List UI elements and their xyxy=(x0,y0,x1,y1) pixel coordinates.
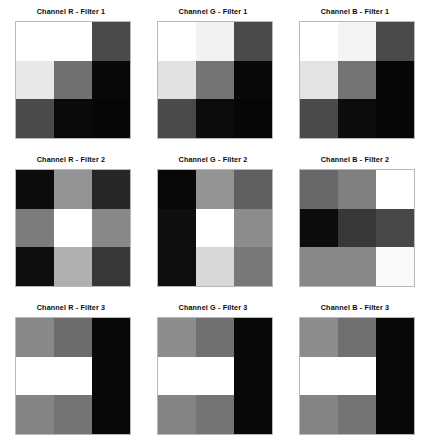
heatmap-cell xyxy=(196,99,234,138)
heatmap-cell xyxy=(234,247,272,286)
heatmap-cell xyxy=(16,357,54,396)
heatmap-cell xyxy=(54,170,92,209)
heatmap-cell xyxy=(376,357,414,396)
heatmap-cell xyxy=(196,318,234,357)
subplot-panel-7: Channel R - Filter 3 xyxy=(0,296,142,444)
heatmap-cell xyxy=(234,22,272,61)
heatmap-cell xyxy=(338,247,376,286)
heatmap-cell xyxy=(376,395,414,434)
heatmap-cell xyxy=(338,357,376,396)
heatmap-cell xyxy=(92,395,130,434)
heatmap-grid xyxy=(15,317,131,435)
heatmap-grid xyxy=(299,317,415,435)
heatmap-cell xyxy=(54,22,92,61)
heatmap-cell xyxy=(92,61,130,100)
heatmap-cell xyxy=(158,209,196,248)
heatmap-cell xyxy=(300,209,338,248)
heatmap-cell xyxy=(338,99,376,138)
heatmap-grid xyxy=(15,169,131,287)
subplot-panel-3: Channel B - Filter 1 xyxy=(284,0,426,148)
heatmap-grid xyxy=(299,21,415,139)
heatmap-cell xyxy=(376,318,414,357)
figure-canvas: Channel R - Filter 1Channel G - Filter 1… xyxy=(0,0,427,444)
heatmap-cell xyxy=(196,170,234,209)
heatmap-cell xyxy=(338,170,376,209)
heatmap-grid xyxy=(157,21,273,139)
heatmap-cell xyxy=(376,170,414,209)
heatmap-cell xyxy=(16,318,54,357)
heatmap-cell xyxy=(300,247,338,286)
subplot-title: Channel R - Filter 1 xyxy=(0,7,142,16)
heatmap-cell xyxy=(92,318,130,357)
heatmap-cell xyxy=(196,209,234,248)
heatmap-cell xyxy=(54,247,92,286)
heatmap-cell xyxy=(234,61,272,100)
heatmap-cell xyxy=(196,357,234,396)
heatmap-cell xyxy=(158,22,196,61)
heatmap-cell xyxy=(54,209,92,248)
heatmap-cell xyxy=(196,395,234,434)
heatmap-cell xyxy=(338,209,376,248)
heatmap-cell xyxy=(300,318,338,357)
subplot-title: Channel B - Filter 2 xyxy=(284,155,426,164)
subplot-title: Channel G - Filter 1 xyxy=(142,7,284,16)
heatmap-cell xyxy=(92,247,130,286)
subplot-title: Channel G - Filter 3 xyxy=(142,303,284,312)
heatmap-cell xyxy=(16,61,54,100)
heatmap-grid xyxy=(157,169,273,287)
heatmap-cell xyxy=(376,22,414,61)
subplot-panel-8: Channel G - Filter 3 xyxy=(142,296,284,444)
heatmap-cell xyxy=(234,357,272,396)
heatmap-cell xyxy=(338,318,376,357)
heatmap-cell xyxy=(92,209,130,248)
heatmap-cell xyxy=(16,209,54,248)
heatmap-cell xyxy=(92,357,130,396)
subplot-title: Channel B - Filter 1 xyxy=(284,7,426,16)
subplot-panel-4: Channel R - Filter 2 xyxy=(0,148,142,296)
heatmap-cell xyxy=(338,22,376,61)
heatmap-cell xyxy=(234,99,272,138)
heatmap-cell xyxy=(234,170,272,209)
heatmap-cell xyxy=(234,318,272,357)
heatmap-cell xyxy=(376,99,414,138)
heatmap-cell xyxy=(16,170,54,209)
heatmap-cell xyxy=(16,395,54,434)
heatmap-grid xyxy=(157,317,273,435)
heatmap-cell xyxy=(300,22,338,61)
heatmap-cell xyxy=(376,247,414,286)
heatmap-cell xyxy=(196,247,234,286)
subplot-panel-6: Channel B - Filter 2 xyxy=(284,148,426,296)
heatmap-cell xyxy=(158,170,196,209)
subplot-panel-2: Channel G - Filter 1 xyxy=(142,0,284,148)
heatmap-cell xyxy=(92,99,130,138)
heatmap-cell xyxy=(158,61,196,100)
heatmap-cell xyxy=(300,395,338,434)
subplot-panel-5: Channel G - Filter 2 xyxy=(142,148,284,296)
heatmap-cell xyxy=(54,318,92,357)
heatmap-cell xyxy=(92,22,130,61)
subplot-title: Channel R - Filter 3 xyxy=(0,303,142,312)
heatmap-cell xyxy=(234,395,272,434)
heatmap-cell xyxy=(158,395,196,434)
heatmap-cell xyxy=(234,209,272,248)
subplot-title: Channel B - Filter 3 xyxy=(284,303,426,312)
heatmap-cell xyxy=(158,318,196,357)
heatmap-grid xyxy=(299,169,415,287)
heatmap-cell xyxy=(300,99,338,138)
subplot-panel-9: Channel B - Filter 3 xyxy=(284,296,426,444)
heatmap-cell xyxy=(300,61,338,100)
heatmap-cell xyxy=(196,22,234,61)
heatmap-cell xyxy=(54,61,92,100)
heatmap-cell xyxy=(300,170,338,209)
subplot-title: Channel R - Filter 2 xyxy=(0,155,142,164)
subplot-title: Channel G - Filter 2 xyxy=(142,155,284,164)
heatmap-cell xyxy=(338,61,376,100)
heatmap-cell xyxy=(54,99,92,138)
heatmap-cell xyxy=(16,99,54,138)
heatmap-cell xyxy=(196,61,234,100)
heatmap-cell xyxy=(54,357,92,396)
heatmap-cell xyxy=(376,209,414,248)
heatmap-cell xyxy=(92,170,130,209)
heatmap-grid xyxy=(15,21,131,139)
heatmap-cell xyxy=(376,61,414,100)
